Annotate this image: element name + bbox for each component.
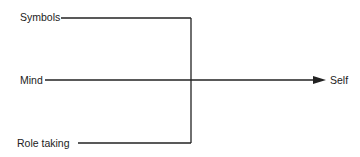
node-role-taking: Role taking bbox=[17, 137, 70, 149]
concept-diagram: Symbols Mind Role taking Self bbox=[0, 0, 360, 157]
node-symbols: Symbols bbox=[20, 11, 60, 23]
arrowhead-icon bbox=[313, 76, 326, 84]
connector-lines bbox=[0, 0, 360, 157]
node-mind: Mind bbox=[20, 74, 43, 86]
node-self: Self bbox=[330, 74, 348, 86]
